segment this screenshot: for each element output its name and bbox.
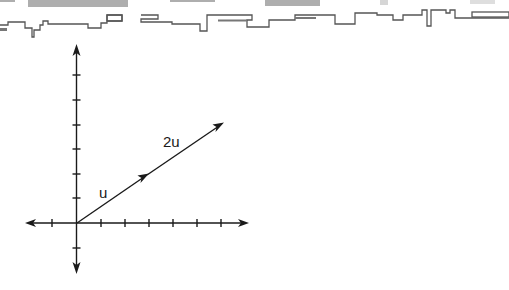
page: u 2u xyxy=(0,0,509,290)
x-axis xyxy=(25,219,249,227)
y-axis xyxy=(73,44,81,274)
torn-page-edge xyxy=(0,10,509,37)
vector-2u xyxy=(147,123,224,176)
vector-u xyxy=(77,174,149,224)
vector-diagram xyxy=(0,0,509,290)
scan-smudges xyxy=(0,0,495,7)
vector-u-label: u xyxy=(99,185,107,200)
vector-2u-label: 2u xyxy=(163,134,180,149)
